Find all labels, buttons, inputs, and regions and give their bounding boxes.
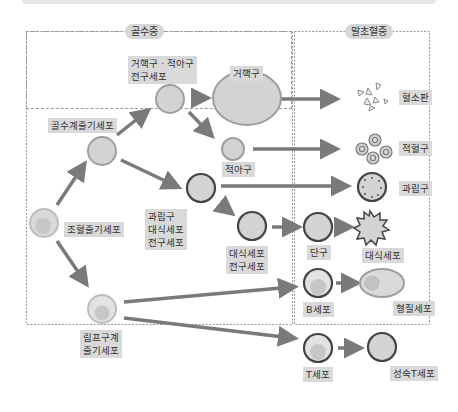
label-monocyte: 단구 — [307, 245, 331, 260]
label-platelet: 혈소판 — [399, 90, 432, 105]
platelets — [358, 83, 388, 111]
erythroblast-cell — [222, 138, 244, 160]
label-lymphoid-stem: 림프구계 줄기세포 — [80, 330, 122, 358]
label-megakaryocyte: 거핵구 — [230, 66, 263, 81]
macrophage-cell — [354, 211, 389, 245]
label-macrophage: 대식세포 — [362, 248, 404, 263]
erythrocytes — [356, 134, 392, 164]
myeloid-stem-cell — [88, 137, 116, 165]
label-b-cell: B세포 — [303, 302, 334, 317]
mep-cell — [156, 85, 184, 113]
label-mep: 거핵구 · 적아구 전구세포 — [128, 56, 197, 84]
label-hsc: 조혈줄기세포 — [64, 222, 124, 237]
peripheral-blood-title: 말초혈중 — [345, 24, 393, 39]
label-plasma-cell: 형질세포 — [393, 301, 435, 316]
bone-marrow-title: 골수중 — [125, 24, 164, 39]
macrophage-progenitor-cell — [238, 212, 266, 240]
hematopoiesis-diagram — [0, 0, 458, 412]
mature-t-cell — [368, 333, 396, 361]
label-erythroblast: 적아구 — [222, 162, 255, 177]
label-gmp: 과립구 대식세포 전구세포 — [145, 209, 187, 250]
label-t-cell: T세포 — [303, 367, 333, 382]
gmp-cell — [187, 174, 215, 202]
monocyte-cell — [304, 213, 332, 241]
label-mature-t-cell: 성숙T세포 — [390, 366, 438, 381]
label-macrophage-progenitor: 대식세포 전구세포 — [226, 246, 268, 274]
label-granulocyte: 과립구 — [399, 181, 432, 196]
label-myeloid-stem: 골수계줄기세포 — [48, 118, 117, 133]
label-erythrocyte: 적혈구 — [399, 141, 432, 156]
